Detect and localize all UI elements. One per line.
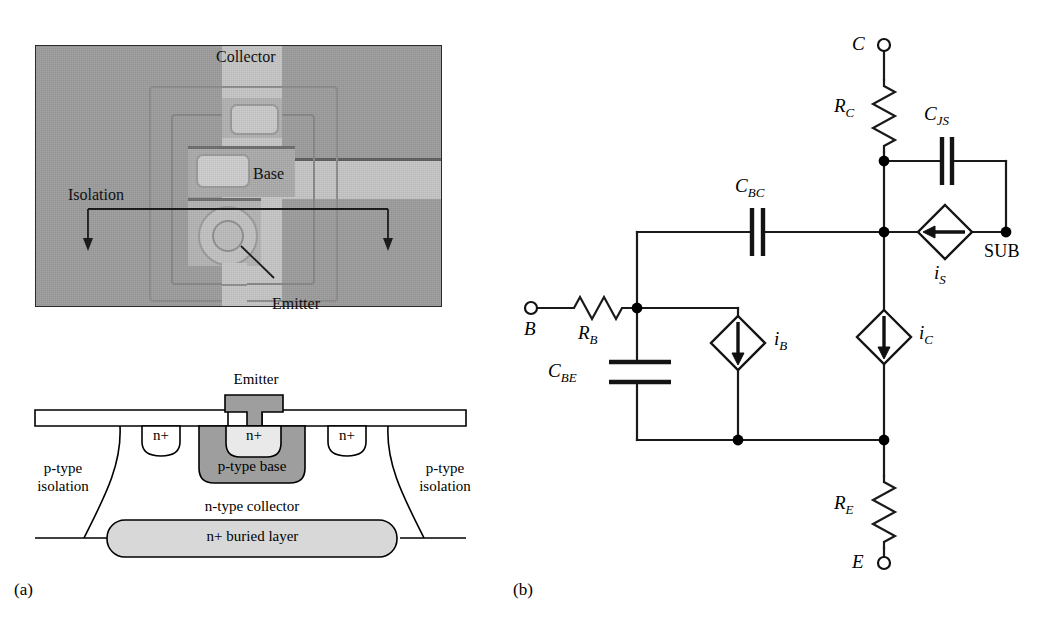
label-terminal-b: B — [524, 318, 536, 340]
label-resistor-rb: RB — [578, 322, 598, 348]
micrograph-label-isolation: Isolation — [68, 186, 124, 204]
label-capacitor-cbc: CBC — [735, 175, 764, 201]
terminal-sub-text: SUB — [984, 241, 1020, 261]
label-capacitor-cjs: CJS — [924, 103, 949, 129]
cbc-text: C — [735, 175, 748, 196]
terminal-c-text: C — [852, 33, 865, 54]
circuit-nodes — [632, 156, 1012, 446]
node-substrate — [1001, 227, 1012, 238]
cjs-sub: JS — [937, 113, 949, 128]
circuit-schematic — [520, 0, 1051, 623]
label-resistor-re: RE — [834, 492, 854, 518]
cjs-text: C — [924, 103, 937, 124]
node-emitter-rail-ib — [733, 435, 744, 446]
terminal-base-circle — [525, 302, 537, 314]
is-sub: S — [939, 272, 946, 287]
label-source-ib: iB — [774, 328, 787, 354]
micrograph-label-emitter: Emitter — [272, 295, 320, 313]
figure-root: Collector Base Emitter Isolation — [0, 0, 1051, 623]
label-resistor-rc: RC — [834, 95, 854, 121]
xsec-label-p-type-base: p-type base — [202, 458, 302, 475]
xsec-label-isolation-left-1: p-type — [18, 460, 108, 477]
node-collector-top — [879, 156, 890, 167]
terminal-emitter-circle — [878, 557, 890, 569]
bjt-equivalent-circuit: C RC CJS CBC SUB iS B RB iC CBE — [520, 0, 1051, 623]
node-emitter-rail — [879, 435, 890, 446]
caption-panel-b: (b) — [513, 580, 533, 600]
label-terminal-sub: SUB — [984, 241, 1020, 262]
micrograph-label-collector: Collector — [216, 48, 276, 66]
bjt-micrograph — [35, 45, 442, 307]
xsec-label-n-plus-center: n+ — [239, 427, 269, 444]
xsec-label-n-type-collector: n-type collector — [162, 498, 342, 515]
micrograph-label-base: Base — [253, 165, 284, 183]
cbc-sub: BC — [748, 185, 765, 200]
label-terminal-e: E — [852, 551, 864, 573]
rc-sub: C — [846, 105, 855, 120]
cbe-text: C — [548, 360, 561, 381]
re-sub: E — [846, 502, 854, 517]
bjt-cross-section: Emitter n+ n+ n+ p-type base p-type isol… — [0, 370, 530, 580]
cbe-sub: BE — [561, 370, 577, 385]
resistor-rb-body — [568, 297, 628, 319]
terminal-b-text: B — [524, 318, 536, 339]
resistor-re-body — [873, 476, 895, 548]
xsec-label-isolation-right-1: p-type — [400, 460, 490, 477]
ib-sub: B — [779, 338, 787, 353]
xsec-label-isolation-left-2: isolation — [18, 478, 108, 495]
label-capacitor-cbe: CBE — [548, 360, 577, 386]
rc-text: R — [834, 95, 846, 116]
terminal-collector-circle — [878, 39, 890, 51]
xsec-label-isolation-right-2: isolation — [400, 478, 490, 495]
re-text: R — [834, 492, 846, 513]
xsec-label-emitter: Emitter — [216, 371, 296, 388]
node-collector-internal — [879, 227, 890, 238]
label-terminal-c: C — [852, 33, 865, 55]
rb-text: R — [578, 322, 590, 343]
terminal-e-text: E — [852, 551, 864, 572]
xsec-label-n-plus-left: n+ — [146, 427, 176, 444]
photo-annotation-arrows — [36, 46, 441, 306]
ic-sub: C — [924, 332, 933, 347]
label-source-is: iS — [934, 262, 946, 288]
rb-sub: B — [590, 332, 598, 347]
caption-panel-a: (a) — [14, 580, 33, 600]
label-source-ic: iC — [919, 322, 933, 348]
xsec-label-buried-layer: n+ buried layer — [180, 528, 325, 545]
node-base-internal — [632, 303, 643, 314]
xsec-label-n-plus-right: n+ — [332, 427, 362, 444]
resistor-rc-body — [873, 80, 895, 152]
